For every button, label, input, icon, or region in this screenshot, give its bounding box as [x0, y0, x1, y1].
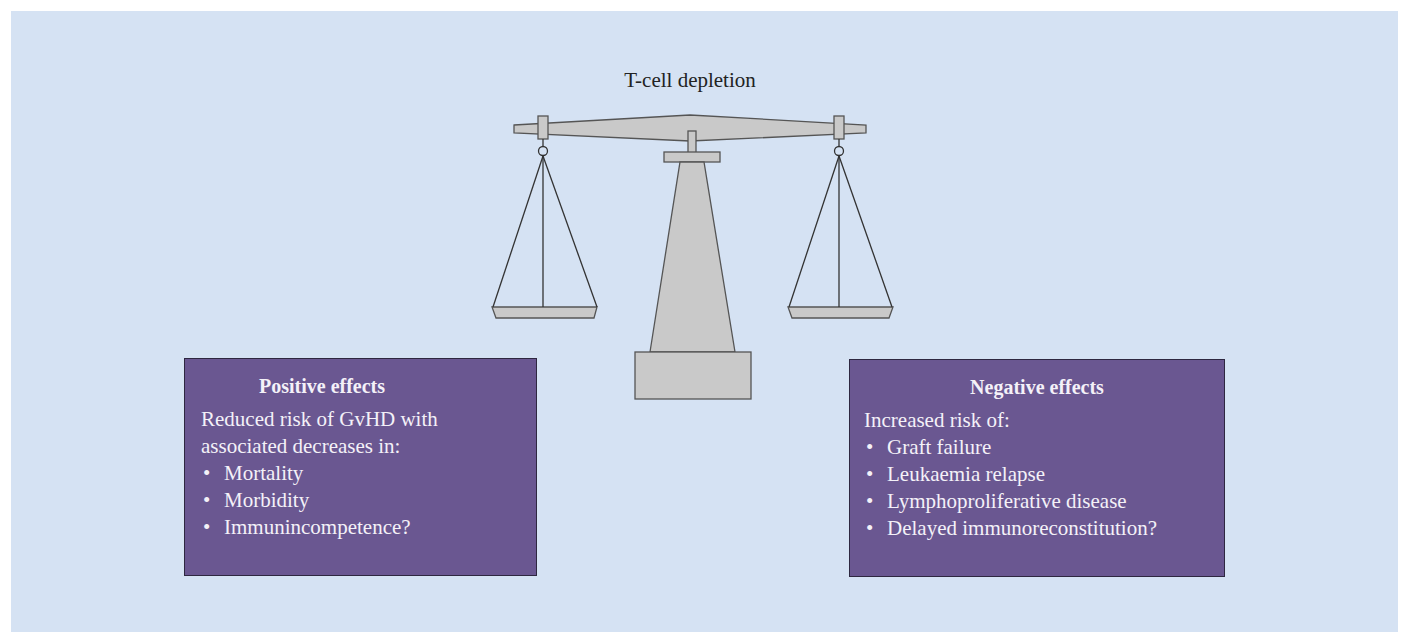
positive-intro-line-2: associated decreases in:: [201, 433, 522, 460]
positive-intro-line-1: Reduced risk of GvHD with: [201, 406, 522, 433]
positive-effects-heading: Positive effects: [201, 373, 522, 400]
bullet-icon: •: [866, 434, 873, 461]
positive-effects-list: •Mortality •Morbidity •Immunincompetence…: [201, 460, 522, 541]
list-item: •Lymphoproliferative disease: [864, 488, 1210, 515]
center-post: [688, 131, 696, 153]
list-item: •Leukaemia relapse: [864, 461, 1210, 488]
bullet-icon: •: [866, 461, 873, 488]
list-item: •Immunincompetence?: [201, 514, 522, 541]
left-pan: [492, 307, 597, 318]
base: [635, 352, 751, 399]
negative-intro: Increased risk of:: [864, 407, 1210, 434]
bullet-icon: •: [203, 514, 210, 541]
negative-effects-list: •Graft failure •Leukaemia relapse •Lymph…: [864, 434, 1210, 542]
bullet-icon: •: [203, 487, 210, 514]
list-item: •Mortality: [201, 460, 522, 487]
pivot-cap: [664, 152, 720, 162]
right-clamp: [834, 116, 844, 139]
left-clamp: [538, 116, 548, 139]
bullet-icon: •: [866, 488, 873, 515]
bullet-icon: •: [866, 515, 873, 542]
bullet-icon: •: [203, 460, 210, 487]
column: [650, 162, 735, 352]
list-item: •Morbidity: [201, 487, 522, 514]
list-item: •Graft failure: [864, 434, 1210, 461]
list-item: •Delayed immunoreconstitution?: [864, 515, 1210, 542]
positive-effects-box: Positive effects Reduced risk of GvHD wi…: [184, 358, 537, 576]
right-pan: [788, 307, 893, 318]
negative-effects-box: Negative effects Increased risk of: •Gra…: [849, 359, 1225, 577]
negative-effects-heading: Negative effects: [864, 374, 1210, 401]
